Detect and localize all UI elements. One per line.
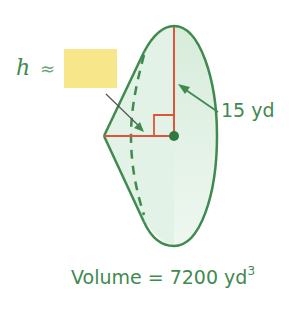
volume-exponent: 3: [247, 264, 255, 278]
height-variable-label: h: [16, 55, 30, 80]
volume-text: Volume = 7200 yd: [71, 266, 247, 288]
center-point: [169, 131, 179, 141]
approx-symbol: ≈: [40, 58, 55, 79]
cone-diagram: h ≈ 15 yd Volume = 7200 yd3: [0, 0, 291, 313]
answer-box[interactable]: [64, 49, 117, 88]
volume-label: Volume = 7200 yd3: [71, 264, 255, 288]
radius-label: 15 yd: [221, 99, 275, 121]
